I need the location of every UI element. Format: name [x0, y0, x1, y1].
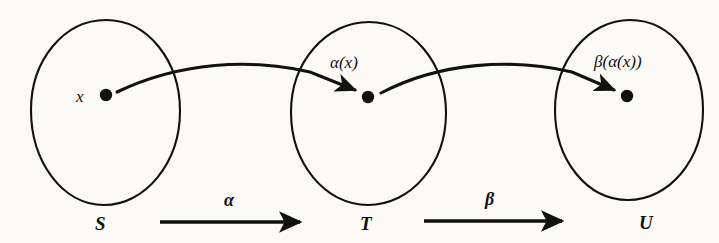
point-beta-alpha-x [621, 90, 633, 102]
map-label-beta: β [485, 190, 494, 208]
set-label-T: T [360, 214, 372, 233]
set-ellipse-T [291, 22, 446, 205]
set-label-U: U [639, 213, 653, 232]
diagram-canvas [0, 0, 719, 243]
map-label-alpha: α [224, 191, 234, 209]
point-label-beta-alpha-x: β(α(x)) [594, 53, 642, 70]
element-mapping-arrows [117, 64, 614, 93]
set-ellipse-S [31, 20, 180, 205]
arrow-alpha-x-to-beta-ax [381, 64, 614, 93]
point-label-x: x [76, 88, 84, 105]
point-label-alpha-x: α(x) [330, 54, 358, 71]
arrow-x-to-alpha-x [117, 64, 355, 92]
point-x [100, 89, 112, 101]
function-composition-diagram: x α(x) β(α(x)) S T U α β [0, 0, 719, 243]
set-ellipses [31, 20, 703, 205]
set-ellipse-U [555, 20, 703, 200]
point-alpha-x [362, 91, 374, 103]
set-label-S: S [95, 214, 106, 233]
